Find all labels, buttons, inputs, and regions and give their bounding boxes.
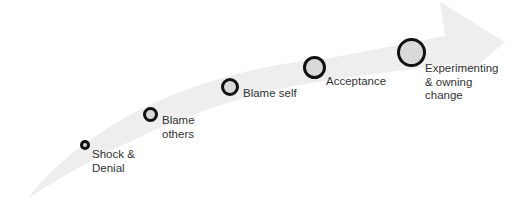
stage-marker-icon [397,38,426,67]
stage-marker-icon [221,78,239,96]
stage-label: Acceptance [326,75,386,89]
stage-label: Experimenting & owning change [425,62,499,103]
stage-marker-icon [303,56,326,79]
stage-marker-icon [80,140,90,150]
stage-label: Blame self [243,87,297,101]
stage-label: Shock & Denial [92,148,135,175]
stage-marker-icon [143,107,158,122]
stage-label: Blame others [162,114,195,141]
